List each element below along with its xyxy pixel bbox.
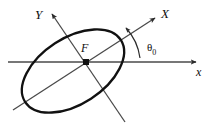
rotated-y-axis-label: Y [35, 8, 42, 21]
focus-label: F [81, 42, 88, 54]
rotated-x-axis-label: X [161, 7, 169, 20]
horizontal-axis-label: x [196, 66, 201, 78]
focus-point-marker [83, 59, 89, 65]
diagram-canvas [0, 0, 209, 127]
angle-subscript: 0 [152, 48, 156, 57]
angle-label: θ0 [147, 42, 156, 56]
geometry-figure: X Y x F θ0 [0, 0, 209, 127]
ellipse-shape [7, 12, 139, 127]
